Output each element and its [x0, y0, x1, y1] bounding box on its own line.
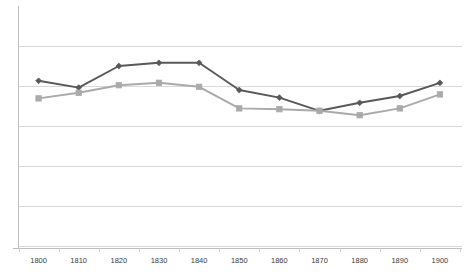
x-axis-tick-label: 1820: [110, 256, 127, 265]
x-axis-tick-label: 1860: [271, 256, 288, 265]
data-point-marker: [36, 96, 41, 101]
x-axis-tick-label: 1870: [311, 256, 328, 265]
x-axis-tick-label: 1850: [231, 256, 248, 265]
data-point-marker: [277, 107, 282, 112]
data-point-marker: [317, 108, 322, 113]
line-chart: 1800181018201830184018501860187018801890…: [0, 0, 467, 280]
chart-canvas: 1800181018201830184018501860187018801890…: [0, 0, 467, 280]
data-point-marker: [116, 83, 121, 88]
data-point-marker: [397, 106, 402, 111]
x-axis-tick-label: 1830: [151, 256, 168, 265]
data-point-marker: [156, 80, 161, 85]
data-point-marker: [357, 113, 362, 118]
data-point-marker: [196, 84, 201, 89]
data-point-marker: [76, 90, 81, 95]
x-axis-tick-label: 1890: [391, 256, 408, 265]
x-axis-tick-label: 1880: [351, 256, 368, 265]
x-axis-tick-label: 1810: [70, 256, 87, 265]
data-point-marker: [437, 92, 442, 97]
data-point-marker: [237, 106, 242, 111]
chart-background: [0, 0, 467, 280]
x-axis-tick-label: 1800: [30, 256, 47, 265]
x-axis-tick-label: 1840: [191, 256, 208, 265]
x-axis-tick-label: 1900: [432, 256, 449, 265]
